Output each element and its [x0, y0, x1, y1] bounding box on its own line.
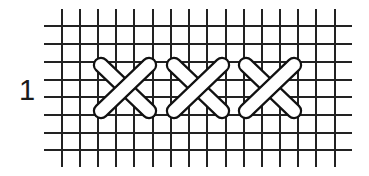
cross-stitch-diagram — [0, 0, 369, 176]
cross-stitches — [101, 65, 294, 111]
cross-stitch-2 — [174, 65, 222, 111]
cross-stitch-3 — [246, 65, 294, 111]
cross-stitch-1 — [101, 65, 149, 111]
row-number-label: 1 — [19, 74, 35, 106]
